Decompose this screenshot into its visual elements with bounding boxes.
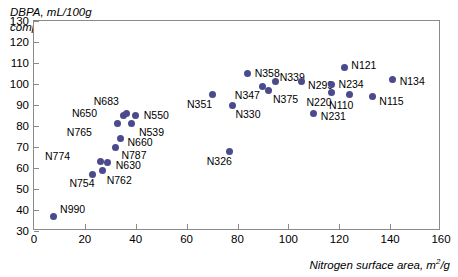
data-point xyxy=(132,112,139,119)
data-point-label: N774 xyxy=(45,150,70,162)
scatter-chart: DBPA, mL/100g compressed sample 30405060… xyxy=(0,0,458,277)
x-tick-mark xyxy=(238,224,239,229)
y-tick-mark xyxy=(34,84,39,85)
y-tick-label: 80 xyxy=(16,120,29,132)
x-tick-label: 160 xyxy=(431,233,450,245)
x-tick-mark xyxy=(288,224,289,229)
data-point xyxy=(128,120,135,127)
data-point-label: N134 xyxy=(400,75,425,87)
data-point xyxy=(265,87,272,94)
data-point-label: N683 xyxy=(94,95,119,107)
y-tick-label: 70 xyxy=(16,141,29,153)
y-tick-label: 40 xyxy=(16,204,29,216)
y-tick-label: 90 xyxy=(16,99,29,111)
data-point xyxy=(328,81,335,88)
data-point-label: N765 xyxy=(67,126,92,138)
data-point xyxy=(341,64,348,71)
y-tick-label: 110 xyxy=(11,57,29,69)
data-point-label: N990 xyxy=(60,203,85,215)
data-point xyxy=(50,213,57,220)
data-point xyxy=(298,78,305,85)
x-tick-mark xyxy=(187,224,188,229)
x-tick-mark xyxy=(390,224,391,229)
data-point-label: N220 xyxy=(307,96,332,108)
x-tick-label: 60 xyxy=(180,233,193,245)
data-point-label: N358 xyxy=(255,67,280,79)
y-tick-mark xyxy=(34,189,39,190)
data-point xyxy=(99,167,106,174)
y-tick-mark xyxy=(34,168,39,169)
data-point xyxy=(114,120,121,127)
data-point xyxy=(328,89,335,96)
x-tick-mark xyxy=(339,224,340,229)
y-tick-mark xyxy=(34,210,39,211)
y-tick-label: 50 xyxy=(16,183,29,195)
x-axis-title: Nitrogen surface area, m2/g xyxy=(309,257,450,271)
y-tick-mark xyxy=(34,42,39,43)
data-point-label: N375 xyxy=(273,93,298,105)
data-point xyxy=(97,158,104,165)
data-point-label: N754 xyxy=(69,177,94,189)
y-tick-label: 130 xyxy=(10,15,29,27)
data-point-label: N234 xyxy=(339,78,364,90)
y-tick-mark xyxy=(34,63,39,64)
data-point xyxy=(123,110,130,117)
data-point-label: N110 xyxy=(329,99,353,111)
plot-area: 30405060708090100110120130 0204060801001… xyxy=(33,20,440,230)
data-point-label: N550 xyxy=(144,109,169,121)
data-point-label: N326 xyxy=(207,155,232,167)
y-tick-label: 100 xyxy=(10,78,29,90)
x-axis-title-text: Nitrogen surface area, m xyxy=(309,259,436,271)
x-tick-label: 100 xyxy=(279,233,298,245)
x-tick-label: 80 xyxy=(231,233,244,245)
data-point-label: N787 xyxy=(121,149,146,161)
y-tick-mark xyxy=(34,21,39,22)
y-tick-mark xyxy=(34,231,39,232)
y-tick-label: 30 xyxy=(16,225,29,237)
data-point xyxy=(112,144,119,151)
data-point xyxy=(244,70,251,77)
x-tick-label: 120 xyxy=(330,233,349,245)
data-point xyxy=(117,135,124,142)
x-tick-label: 20 xyxy=(78,233,91,245)
data-point xyxy=(369,93,376,100)
data-point-label: N330 xyxy=(235,108,260,120)
data-point-label: N650 xyxy=(72,107,97,119)
x-tick-label: 40 xyxy=(129,233,142,245)
y-tick-mark xyxy=(34,147,39,148)
data-point xyxy=(272,78,279,85)
data-point-label: N762 xyxy=(107,174,132,186)
data-point-label: N115 xyxy=(379,95,403,107)
data-point-label: N539 xyxy=(139,126,164,138)
data-point xyxy=(226,148,233,155)
data-point xyxy=(346,91,353,98)
y-tick-mark xyxy=(34,126,39,127)
x-axis-title-unit: /g xyxy=(440,259,450,271)
x-tick-label: 140 xyxy=(381,233,400,245)
data-point xyxy=(389,76,396,83)
data-point-label: N121 xyxy=(351,59,376,71)
y-tick-label: 60 xyxy=(16,162,29,174)
data-point-label: N351 xyxy=(187,98,212,110)
data-point-label: N347 xyxy=(235,89,260,101)
y-tick-label: 120 xyxy=(10,36,29,48)
x-tick-mark xyxy=(85,224,86,229)
y-tick-mark xyxy=(34,105,39,106)
data-point xyxy=(104,159,111,166)
x-tick-label: 0 xyxy=(31,233,37,245)
x-tick-mark xyxy=(136,224,137,229)
data-point-label: N231 xyxy=(321,110,346,122)
data-point xyxy=(310,110,317,117)
